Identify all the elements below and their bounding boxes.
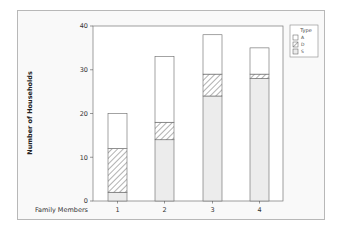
bar-segment-d xyxy=(203,74,222,96)
y-tick-label: 0 xyxy=(84,197,88,205)
bar-segment-s xyxy=(203,96,222,201)
bar-segment-s xyxy=(108,192,127,201)
y-tick-label: 30 xyxy=(80,66,88,74)
x-axis: 1 2 3 4 Family Members xyxy=(35,201,262,214)
y-axis: 0 10 20 30 40 xyxy=(80,22,93,205)
x-tick-label: 4 xyxy=(257,206,261,214)
bar-family-3 xyxy=(203,35,222,201)
bar-segment-d xyxy=(250,74,269,78)
bar-segment-a xyxy=(155,57,174,123)
legend-label-d: D xyxy=(301,42,305,47)
bar-segment-s xyxy=(250,79,269,202)
legend-title: Type xyxy=(299,27,311,34)
bar-segment-s xyxy=(155,140,174,201)
y-axis-label: Number of Households xyxy=(26,71,34,155)
legend-swatch-d xyxy=(293,42,298,47)
stacked-bar-chart: 0 10 20 30 40 Number of Households 1 2 xyxy=(0,0,338,236)
x-tick-label: 2 xyxy=(162,206,166,214)
bar-family-4 xyxy=(250,48,269,201)
x-tick-label: 3 xyxy=(210,206,214,214)
legend-swatch-a xyxy=(293,35,298,40)
x-axis-label: Family Members xyxy=(35,206,89,214)
legend: Type A D S xyxy=(290,25,318,57)
bar-segment-a xyxy=(203,35,222,74)
bar-family-1 xyxy=(108,114,127,202)
bar-segment-a xyxy=(250,48,269,74)
bar-segment-a xyxy=(108,114,127,149)
bar-segment-d xyxy=(108,149,127,193)
legend-label-s: S xyxy=(301,49,304,54)
y-tick-label: 20 xyxy=(80,110,88,118)
bar-segment-d xyxy=(155,122,174,140)
legend-swatch-s xyxy=(293,49,298,54)
bar-family-2 xyxy=(155,57,174,201)
x-tick-label: 1 xyxy=(115,206,119,214)
y-tick-label: 40 xyxy=(80,22,88,30)
y-tick-label: 10 xyxy=(80,154,88,162)
